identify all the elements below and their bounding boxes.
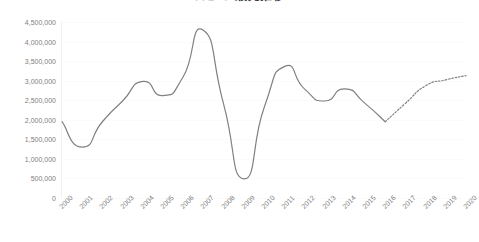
series-line-forecast	[385, 76, 466, 122]
series-line-actual	[62, 29, 385, 179]
line-chart: ＡＢＣ 販売推移 0500,0001,000,0001,500,0002,000…	[0, 0, 479, 242]
series-layer	[0, 0, 479, 242]
